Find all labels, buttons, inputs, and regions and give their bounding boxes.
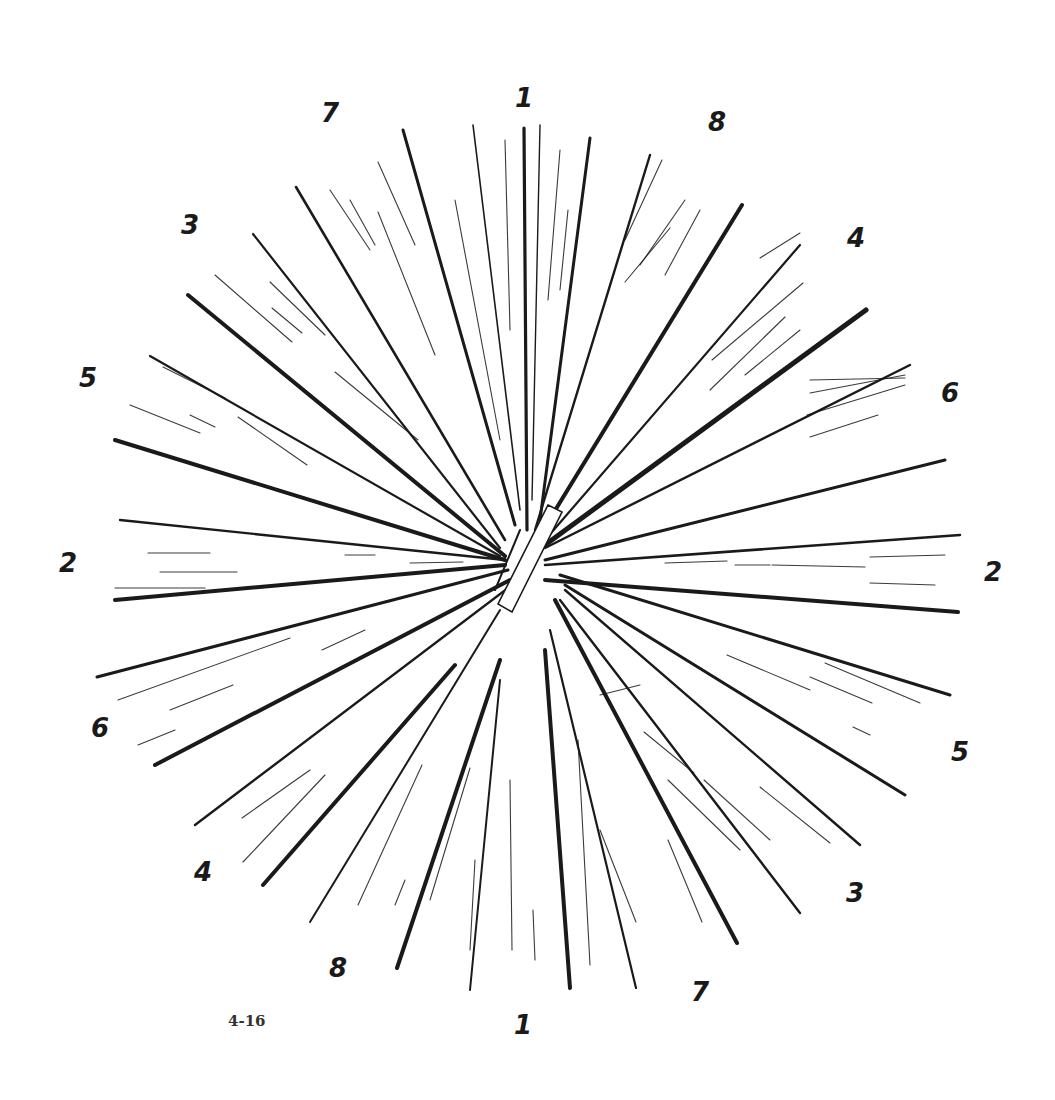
- hatch-stroke: [163, 367, 225, 398]
- ray-line: [195, 585, 512, 825]
- hatch-stroke: [870, 583, 935, 585]
- ray-line: [155, 580, 510, 765]
- ray-line: [555, 600, 737, 943]
- hatch-stroke: [668, 840, 702, 922]
- hatch-stroke: [130, 405, 200, 433]
- hatch-stroke: [644, 732, 694, 773]
- direction-label: 7: [321, 98, 339, 128]
- hatch-stroke: [853, 727, 870, 735]
- ray-line: [470, 680, 500, 990]
- hatch-stroke: [138, 730, 175, 745]
- hatch-stroke: [533, 910, 535, 960]
- ray-line: [253, 234, 500, 548]
- ray-line: [545, 365, 910, 548]
- hatch-stroke: [560, 210, 568, 290]
- direction-label: 1: [515, 83, 533, 113]
- ray-line: [532, 125, 540, 500]
- hatch-stroke: [322, 630, 365, 650]
- hatch-stroke: [807, 385, 905, 415]
- hatch-stroke: [242, 770, 310, 818]
- direction-label: 3: [181, 210, 199, 240]
- direction-label: 8: [329, 953, 347, 983]
- hatch-stroke: [665, 561, 727, 563]
- ray-line: [535, 155, 650, 530]
- ray-line: [560, 600, 800, 913]
- direction-label: 3: [846, 878, 864, 908]
- hatch-stroke: [810, 415, 878, 437]
- hatch-stroke: [215, 275, 292, 342]
- ray-line: [150, 356, 500, 556]
- ray-line: [296, 187, 505, 540]
- ray-line: [397, 660, 500, 968]
- hatch-stroke: [510, 780, 512, 950]
- direction-label: 5: [79, 363, 97, 393]
- hatch-stroke: [272, 308, 302, 333]
- ray-line: [545, 245, 800, 540]
- ray-line: [310, 610, 500, 922]
- hatch-stroke: [378, 162, 415, 245]
- direction-label: 6: [941, 378, 959, 408]
- hatch-stroke: [335, 372, 418, 440]
- ray-line: [115, 440, 505, 560]
- hatch-stroke: [665, 210, 700, 275]
- ray-line: [263, 665, 455, 885]
- ray-line: [545, 310, 866, 545]
- hatch-stroke: [118, 638, 290, 700]
- hatch-stroke: [190, 415, 215, 427]
- direction-label: 4: [847, 223, 865, 253]
- hatch-stroke: [505, 140, 510, 330]
- hatch-stroke: [810, 677, 872, 703]
- hatch-stroke: [600, 685, 640, 695]
- hatch-stroke: [870, 555, 945, 557]
- ray-line: [188, 295, 505, 556]
- hatch-stroke: [358, 765, 422, 905]
- hatch-stroke: [378, 212, 435, 355]
- hatch-stroke: [668, 780, 740, 850]
- hatch-stroke: [548, 150, 560, 300]
- direction-label: 6: [91, 713, 109, 743]
- direction-label: 7: [691, 977, 709, 1007]
- ray-line: [97, 570, 508, 677]
- figure-caption: 4-16: [228, 1012, 266, 1030]
- ray-line: [545, 580, 958, 612]
- direction-label: 4: [194, 857, 212, 887]
- hatch-stroke: [825, 663, 920, 703]
- ray-line: [524, 128, 527, 530]
- direction-label: 5: [951, 737, 969, 767]
- hatch-stroke: [760, 233, 800, 258]
- direction-label: 2: [59, 548, 77, 578]
- ray-line: [115, 565, 505, 600]
- hatch-stroke: [430, 768, 470, 900]
- hatch-stroke: [727, 655, 810, 690]
- direction-label: 2: [984, 557, 1002, 587]
- ray-line: [565, 585, 905, 795]
- hatch-stroke: [395, 880, 405, 905]
- direction-label: 8: [708, 107, 726, 137]
- ray-line: [540, 205, 742, 535]
- hatch-stroke: [170, 685, 233, 710]
- hatch-stroke: [625, 160, 662, 240]
- hatch-stroke: [455, 200, 500, 440]
- radial-line-figure: [0, 0, 1055, 1100]
- hatch-stroke: [760, 787, 830, 843]
- hatch-stroke: [410, 562, 463, 563]
- ray-line: [473, 125, 520, 510]
- hatch-stroke: [330, 190, 370, 250]
- hatch-stroke: [600, 830, 636, 922]
- ray-line: [565, 590, 860, 845]
- hatch-stroke: [810, 378, 905, 380]
- hatch-stroke: [625, 228, 670, 282]
- ray-line: [545, 535, 960, 565]
- ray-line: [545, 460, 945, 560]
- hatch-stroke: [772, 565, 865, 567]
- hatch-stroke: [745, 330, 800, 375]
- direction-label: 1: [514, 1010, 532, 1040]
